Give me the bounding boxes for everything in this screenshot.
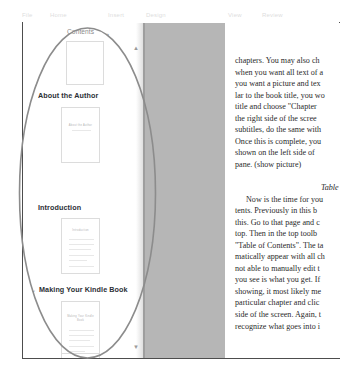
chevron-right-icon[interactable]: › xyxy=(107,31,109,37)
thumbnail-text-line xyxy=(69,266,94,267)
nav-section-about-the-author[interactable]: About the Author About the Author xyxy=(23,91,144,196)
document-line: showing, it most likely me xyxy=(235,286,340,298)
thumbnail-text-line xyxy=(69,335,94,336)
document-line: when you want all text of a xyxy=(235,67,340,79)
thumbnail-title: Introduction xyxy=(72,229,89,232)
nav-section-label[interactable]: Making Your Kindle Book xyxy=(39,285,128,294)
menu-item-review[interactable]: Review xyxy=(262,13,283,18)
menu-item-design[interactable]: Design xyxy=(146,13,166,18)
document-line: matically appear with all ch xyxy=(235,251,340,263)
document-line: not able to manually edit t xyxy=(235,263,340,275)
document-line: you see is what you get. If xyxy=(235,274,340,286)
document-line: side of the screen. Again, t xyxy=(235,309,340,321)
document-line: lar to the book title, you wo xyxy=(235,90,340,102)
thumbnail-title: Making Your Kindle Book xyxy=(66,315,96,323)
menu-item-file[interactable]: File xyxy=(22,13,32,18)
document-line: title and choose "Chapter xyxy=(235,101,340,113)
document-line: "Table of Contents". The ta xyxy=(235,240,340,252)
document-line: Once this is complete, you xyxy=(235,136,340,148)
menu-item-insert[interactable]: Insert xyxy=(108,13,124,18)
document-line: top. Then in the top toolb xyxy=(235,228,340,240)
thumbnail-text-line xyxy=(69,351,85,352)
document-line: this. Go to that page and c xyxy=(235,217,340,229)
nav-section-label[interactable]: Contents xyxy=(67,28,94,35)
document-line: chapters. You may also ch xyxy=(235,55,340,67)
screenshot-root: File Home Insert Design View Review › Co… xyxy=(0,0,360,385)
thumbnail-text-line xyxy=(69,239,94,240)
collapsed-panel xyxy=(145,23,225,358)
menu-bar: File Home Insert Design View Review xyxy=(22,13,342,22)
page-thumbnail[interactable]: Making Your Kindle Book xyxy=(61,301,100,357)
document-line: Now is the time for you xyxy=(235,194,340,206)
nav-section-label[interactable]: Introduction xyxy=(38,203,81,212)
thumbnail-text-line xyxy=(69,260,87,261)
document-line: the right side of the scree xyxy=(235,113,340,125)
document-line: shown on the left side of xyxy=(235,147,340,159)
page-thumbnail[interactable]: Introduction xyxy=(61,218,100,274)
nav-section-making-your-kindle-book[interactable]: ⌄ Making Your Kindle Book Making Your Ki… xyxy=(23,285,144,358)
thumbnail-text-line xyxy=(69,244,94,245)
page-thumbnail[interactable] xyxy=(61,353,100,358)
document-line: subtitles, do the same with xyxy=(235,124,340,136)
document-body: chapters. You may also ch when you want … xyxy=(235,55,340,332)
document-pane[interactable]: chapters. You may also ch when you want … xyxy=(225,23,340,358)
thumbnail-title: About the Author xyxy=(69,124,92,127)
document-line: particular chapter and clic xyxy=(235,297,340,309)
document-line: tents. Previously in this b xyxy=(235,205,340,217)
thumbnail-text-line xyxy=(72,130,91,131)
document-section-title: Table of xyxy=(235,182,340,194)
menu-item-view[interactable]: View xyxy=(228,13,242,18)
thumbnail-text-line xyxy=(69,255,94,256)
thumbnail-text-line xyxy=(69,330,94,331)
page-thumbnail[interactable]: About the Author xyxy=(61,107,100,163)
document-line: recognize what goes into i xyxy=(235,321,340,333)
nav-section-contents[interactable]: › Contents xyxy=(23,23,144,93)
nav-section-label[interactable]: About the Author xyxy=(38,91,98,100)
thumbnail-text-line xyxy=(69,249,91,250)
thumbnail-text-line xyxy=(69,340,90,341)
paragraph-spacer xyxy=(235,170,340,182)
document-line: you want a picture and tex xyxy=(235,78,340,90)
thumbnail-text-line xyxy=(69,346,94,347)
navigation-pane[interactable]: › Contents About the Author About the Au… xyxy=(23,23,144,358)
document-section-title-wrap: Table of xyxy=(235,182,340,194)
page-thumbnail[interactable] xyxy=(66,41,104,85)
chevron-down-icon[interactable]: ⌄ xyxy=(31,287,36,293)
document-line: pane. (show picture) xyxy=(235,159,340,171)
menu-item-home[interactable]: Home xyxy=(50,13,67,18)
